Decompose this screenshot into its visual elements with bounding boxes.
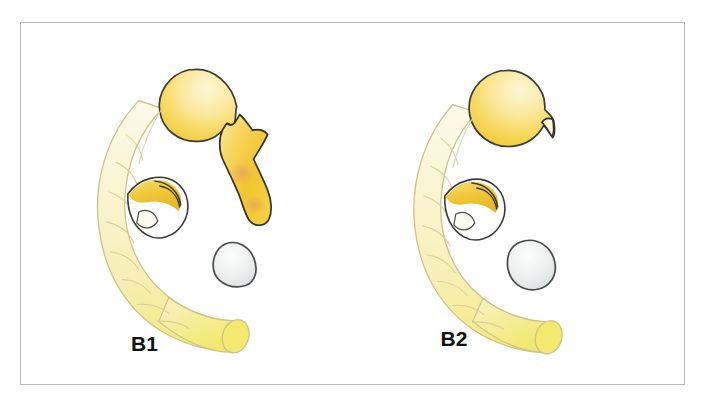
panel-label-b2: B2 xyxy=(441,328,468,349)
panel-b2-illustration xyxy=(353,23,685,384)
gallstone xyxy=(507,240,555,290)
duodenal-bulb xyxy=(469,70,555,146)
gallstone xyxy=(213,243,256,287)
panel-label-b1: B1 xyxy=(131,333,158,354)
leak-blush-distal xyxy=(244,195,266,215)
figure-frame: B1 xyxy=(20,22,685,385)
figure-root: B1 xyxy=(0,0,708,410)
panel-b1-illustration xyxy=(21,23,353,384)
panel-b1: B1 xyxy=(21,23,353,384)
panel-b2: B2 xyxy=(353,23,685,384)
leak-blush xyxy=(229,161,255,185)
